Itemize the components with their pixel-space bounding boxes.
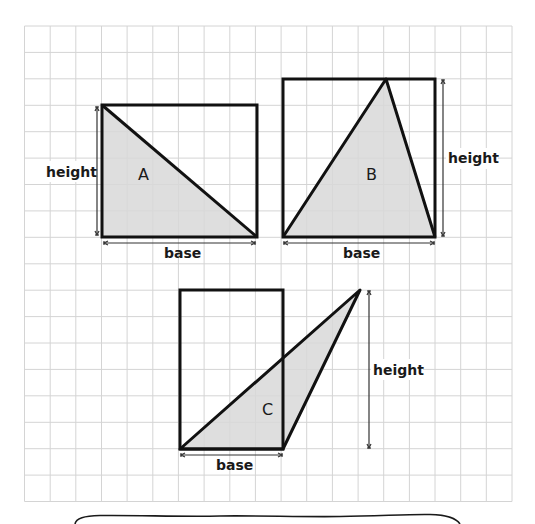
shape-c: height base C [180, 290, 424, 473]
triangles-diagram: height base A height base B [0, 0, 535, 524]
height-label-c: height [373, 362, 424, 378]
shape-label-c: C [262, 400, 273, 419]
base-label-a: base [164, 245, 201, 261]
height-label-a: height [46, 164, 97, 180]
base-label-c: base [216, 457, 253, 473]
shape-label-a: A [138, 165, 149, 184]
height-label-b: height [448, 150, 499, 166]
shape-b: height base B [283, 79, 499, 261]
base-label-b: base [343, 245, 380, 261]
answer-box-outline [75, 514, 460, 524]
shape-label-b: B [366, 165, 377, 184]
